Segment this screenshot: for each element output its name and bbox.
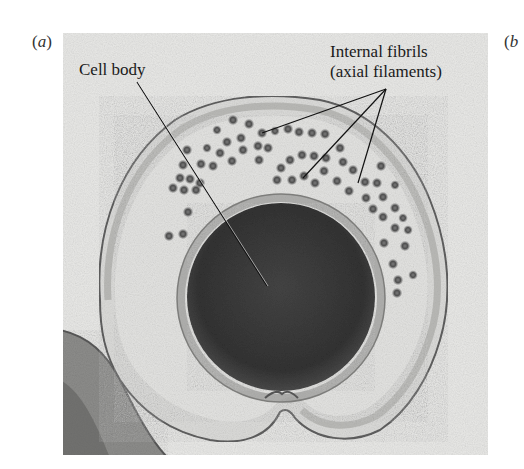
panel-b-letter: b	[510, 32, 519, 51]
micrograph-photo	[60, 33, 488, 458]
panel-label-b: (b	[504, 32, 518, 52]
cell-body-label: Cell body	[79, 60, 146, 80]
panel-a-close-paren: )	[46, 32, 52, 51]
panel-label-a: (a)	[32, 32, 52, 52]
panel-a-letter: a	[38, 32, 47, 51]
internal-fibrils-label-line2: (axial filaments)	[330, 62, 442, 82]
internal-fibrils-label: Internal fibrils (axial filaments)	[330, 42, 442, 82]
internal-fibrils-label-line1: Internal fibrils	[330, 42, 442, 62]
